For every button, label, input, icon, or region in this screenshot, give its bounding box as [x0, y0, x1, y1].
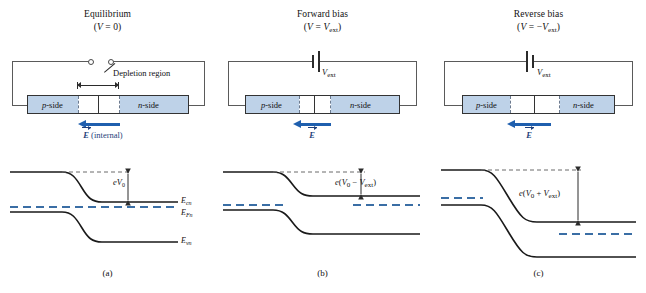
barrier-annotation: e(V0 + Vext)	[519, 188, 560, 200]
wire-bottom-left	[228, 105, 245, 106]
wire-top-left	[444, 61, 526, 62]
electric-field-label: E	[509, 130, 549, 140]
label-fermi-level-n: EFn	[181, 208, 193, 218]
panel-c-circuit: Vext p-side n-side E	[431, 50, 646, 110]
semiconductor-bar: p-side n-side	[27, 95, 189, 114]
wire-bottom-right	[400, 105, 417, 106]
wire-right-vertical	[204, 61, 205, 105]
depletion-right	[99, 96, 120, 113]
terminal-left	[88, 59, 94, 65]
battery-plate-short	[532, 55, 534, 68]
measure-tick-left	[77, 82, 78, 89]
barrier-annotation: e(V0 − Vext)	[335, 177, 376, 189]
panel-reverse-bias: Reverse bias (V = −Vext) Vext p-side n-s…	[431, 0, 646, 293]
wire-top-left	[228, 61, 312, 62]
panel-b-title: Forward bias (V = Vext)	[215, 8, 430, 36]
barrier-arrow-head-top	[358, 169, 364, 175]
panel-b-letter: (b)	[215, 268, 430, 278]
electric-field-label: E (internal)	[58, 130, 148, 140]
panel-equilibrium: Equilibrium (V = 0) Depletion region	[0, 0, 215, 293]
wire-right-vertical	[416, 61, 417, 105]
wire-top-right	[534, 61, 632, 62]
barrier-arrow-head-top	[575, 167, 581, 173]
valence-band-curve	[441, 205, 636, 257]
panel-c-title: Reverse bias (V = −Vext)	[431, 8, 646, 36]
measure-line	[80, 85, 116, 86]
depletion-left	[78, 96, 99, 113]
label-valence-band-n: Evn	[181, 236, 192, 246]
battery-label: Vext	[322, 67, 336, 79]
battery-label: Vext	[537, 67, 551, 79]
n-side-label: n-side	[573, 100, 594, 110]
conduction-band-curve	[10, 172, 178, 202]
depletion-width-measure	[77, 82, 119, 89]
label-conduction-band-n: Ecn	[181, 196, 192, 206]
panel-b-title-line1: Forward bias	[297, 9, 348, 19]
conduction-band-curve	[223, 172, 420, 196]
panel-a-title-line2: (V = 0)	[0, 21, 215, 34]
p-side-label: p-side	[42, 100, 63, 110]
valence-band-curve	[10, 212, 178, 242]
panel-b-band-diagram: e(V0 − Vext)	[215, 150, 430, 265]
panel-a-title-line1: Equilibrium	[84, 9, 131, 19]
wire-top-right	[320, 61, 416, 62]
panel-a-title: Equilibrium (V = 0)	[0, 8, 215, 33]
electric-field-label: E	[292, 130, 332, 140]
wire-bottom-right	[615, 105, 633, 106]
panel-a-band-diagram: eV0 Ecn EFn Evn	[0, 150, 215, 265]
pn-junction-figure: Equilibrium (V = 0) Depletion region	[0, 0, 646, 293]
wire-top-right	[112, 61, 204, 62]
n-side-label: n-side	[138, 100, 159, 110]
depletion-right	[535, 96, 560, 113]
panel-c-title-line2: (V = −Vext)	[431, 21, 646, 37]
wire-top-left	[12, 61, 90, 62]
wire-left-vertical	[228, 61, 229, 105]
panel-b-title-line2: (V = Vext)	[215, 21, 430, 37]
depletion-left	[510, 96, 535, 113]
battery-plate-long	[526, 51, 528, 72]
depletion-left	[299, 96, 315, 113]
panel-b-circuit: Vext p-side n-side E	[215, 50, 430, 110]
wire-bottom-right	[189, 105, 205, 106]
barrier-annotation: eV0	[113, 177, 125, 188]
panel-a-circuit: Depletion region p-side n-side E (inter	[0, 50, 215, 110]
battery-plate-short	[312, 55, 314, 68]
panel-a-letter: (a)	[0, 268, 215, 278]
p-side-label: p-side	[261, 100, 282, 110]
panel-c-band-diagram: e(V0 + Vext)	[431, 150, 646, 265]
wire-left-vertical	[12, 61, 13, 105]
valence-band-curve	[223, 210, 420, 234]
semiconductor-bar: p-side n-side	[245, 95, 400, 114]
battery-plate-long	[318, 51, 320, 72]
n-side-label: n-side	[350, 100, 371, 110]
panel-c-title-line1: Reverse bias	[514, 9, 563, 19]
panel-forward-bias: Forward bias (V = Vext) Vext p-side n-si…	[215, 0, 430, 293]
wire-left-vertical	[444, 61, 445, 105]
wire-bottom-left	[444, 105, 462, 106]
semiconductor-bar: p-side n-side	[462, 95, 615, 114]
depletion-right	[315, 96, 331, 113]
depletion-region-label: Depletion region	[113, 68, 170, 78]
panel-c-letter: (c)	[431, 268, 646, 278]
p-side-label: p-side	[476, 100, 497, 110]
wire-bottom-left	[12, 105, 27, 106]
measure-tick-right	[118, 82, 119, 89]
wire-right-vertical	[632, 61, 633, 105]
barrier-arrow-head-top	[125, 169, 131, 175]
